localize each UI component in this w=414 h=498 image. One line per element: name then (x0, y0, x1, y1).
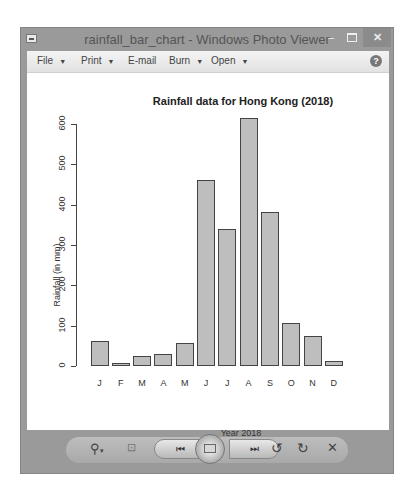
chevron-down-icon: ▾ (100, 447, 104, 454)
menu-print[interactable]: Print▼ (81, 55, 115, 66)
rotate-counterclockwise-button[interactable]: ↺ (271, 440, 283, 456)
x-tick-label: S (261, 378, 279, 388)
menu-open-label: Open (211, 55, 235, 66)
menu-email-label: E-mail (128, 55, 156, 66)
image-canvas: Rainfall data for Hong Kong (2018) Rainf… (27, 73, 389, 430)
y-tick (71, 326, 76, 327)
x-tick-label: O (282, 378, 300, 388)
rotate-clockwise-button[interactable]: ↻ (297, 440, 309, 456)
x-tick-label: F (112, 378, 130, 388)
x-tick-label: J (218, 378, 236, 388)
y-tick-label: 200 (57, 272, 67, 296)
menu-bar: File▼ Print▼ E-mail Burn▼ Open▼ ? (27, 51, 389, 73)
x-tick-label: M (133, 378, 151, 388)
bar (133, 356, 151, 366)
bar (218, 229, 236, 366)
bar (240, 118, 258, 366)
slideshow-button[interactable] (195, 434, 225, 464)
y-tick (71, 285, 76, 286)
y-tick-label: 100 (57, 313, 67, 337)
x-tick-label: M (176, 378, 194, 388)
maximize-button[interactable] (343, 28, 361, 47)
zoom-button[interactable]: ⚲▾ (90, 441, 104, 456)
chevron-down-icon: ▼ (196, 58, 203, 65)
x-tick-label: J (91, 378, 109, 388)
y-tick (71, 164, 76, 165)
y-tick-label: 500 (57, 151, 67, 175)
x-tick-label: D (325, 378, 343, 388)
bar (282, 323, 300, 366)
magnifier-icon: ⚲ (90, 441, 100, 456)
menu-file[interactable]: File▼ (37, 55, 66, 66)
y-tick (71, 205, 76, 206)
actual-size-button[interactable]: ⊡ (127, 441, 136, 454)
y-tick-label: 400 (57, 192, 67, 216)
help-icon[interactable]: ? (370, 55, 382, 67)
y-tick (71, 245, 76, 246)
close-button[interactable]: ✕ (363, 28, 391, 47)
bar (176, 343, 194, 366)
x-tick-label: N (304, 378, 322, 388)
menu-file-label: File (37, 55, 53, 66)
y-tick-label: 300 (57, 232, 67, 256)
bar (91, 341, 109, 366)
skip-previous-icon: ⏮ (176, 443, 185, 454)
menu-print-label: Print (81, 55, 102, 66)
chart-title: Rainfall data for Hong Kong (2018) (27, 95, 389, 107)
menu-burn-label: Burn (169, 55, 190, 66)
minimize-button[interactable]: – (322, 28, 340, 47)
skip-next-icon: ⏭ (250, 443, 259, 454)
bar (304, 336, 322, 366)
bar (325, 361, 343, 366)
chevron-down-icon: ▼ (59, 58, 66, 65)
menu-burn[interactable]: Burn▼ (169, 55, 203, 66)
bottom-toolbar: ⚲▾ ⊡ ⏮ ⏭ ↺ ↻ ✕ (21, 431, 393, 473)
maximize-icon (347, 33, 357, 42)
slideshow-icon (204, 444, 216, 453)
delete-button[interactable]: ✕ (327, 440, 338, 455)
y-tick (71, 366, 76, 367)
chevron-down-icon: ▼ (241, 58, 248, 65)
bar (261, 212, 279, 366)
y-tick-label: 0 (57, 353, 67, 377)
chevron-down-icon: ▼ (108, 58, 115, 65)
x-tick-label: A (240, 378, 258, 388)
x-tick-label: J (197, 378, 215, 388)
bar (112, 363, 130, 366)
bar (154, 354, 172, 366)
bar (197, 180, 215, 366)
y-axis-line (76, 124, 77, 366)
menu-email[interactable]: E-mail (128, 55, 156, 66)
y-tick-label: 600 (57, 111, 67, 135)
menu-open[interactable]: Open▼ (211, 55, 248, 66)
photo-viewer-window: rainfall_bar_chart - Windows Photo Viewe… (20, 27, 394, 474)
title-bar: rainfall_bar_chart - Windows Photo Viewe… (21, 28, 393, 51)
x-tick-label: A (154, 378, 172, 388)
y-tick (71, 124, 76, 125)
